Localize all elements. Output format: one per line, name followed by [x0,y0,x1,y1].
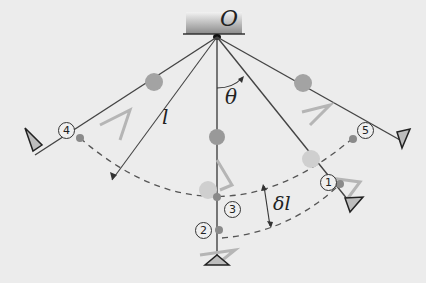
dot-position-1 [336,180,344,188]
dot-position-4 [76,134,84,142]
position-label-4: 4 [58,122,75,139]
angle-label: θ [225,85,237,109]
delta-l-arrow [264,186,270,226]
length-label: l [162,105,168,129]
dot-position-2 [215,226,223,234]
position-label-2: 2 [195,222,212,239]
delta-l-label: δl [273,192,291,214]
diagram-canvas [0,0,426,283]
position-label-5: 5 [357,122,374,139]
bob-body-4 [145,73,163,91]
bob-body-5 [294,74,312,92]
pendulum-diagram: O l θ δl 4 5 3 2 1 [0,0,426,283]
position-label-1: 1 [320,174,337,191]
bob-body-center [209,129,225,145]
position-label-3: 3 [224,201,241,218]
pivot-label: O [220,6,238,31]
ghost-bob-1 [302,150,320,168]
dot-position-3 [213,193,221,201]
dot-position-5 [349,135,357,143]
theta-arrow-head [238,76,244,83]
